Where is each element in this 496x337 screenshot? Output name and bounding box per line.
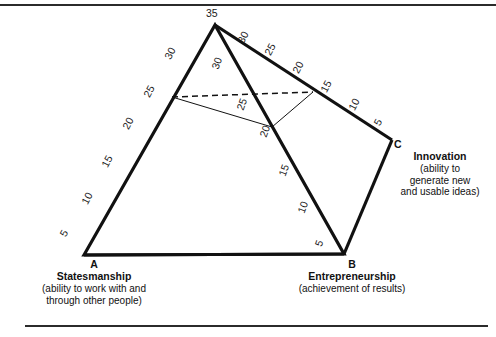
construction-line-from-c-axis bbox=[272, 92, 313, 127]
vertex-b-letter: B bbox=[272, 258, 432, 270]
vertex-label-a: A Statesmanship (ability to work with an… bbox=[14, 258, 174, 306]
figure-canvas: 35 5 10 15 20 25 30 30 25 20 15 10 5 30 … bbox=[0, 0, 496, 337]
vertex-label-b: B Entrepreneurship (achievement of resul… bbox=[272, 258, 432, 295]
vertex-a-desc-1: (ability to work with and bbox=[14, 283, 174, 295]
vertex-a-letter: A bbox=[14, 258, 174, 270]
vertex-c-desc-3: and usable ideas) bbox=[388, 186, 492, 198]
vertex-b-desc-1: (achievement of results) bbox=[272, 283, 432, 295]
vertex-label-c: C Innovation (ability to generate new an… bbox=[388, 138, 492, 198]
baseline-ab bbox=[84, 254, 344, 255]
tick-apex-35: 35 bbox=[206, 8, 218, 19]
vertex-c-title: Innovation bbox=[388, 150, 492, 162]
vertex-c-desc-2: generate new bbox=[388, 175, 492, 187]
vertex-b-title: Entrepreneurship bbox=[272, 270, 432, 282]
dashed-construction-line bbox=[172, 92, 313, 97]
vertex-c-letter: C bbox=[394, 138, 492, 150]
edge-c-to-b bbox=[344, 140, 392, 254]
vertex-a-desc-2: through other people) bbox=[14, 295, 174, 307]
vertex-c-desc-1: (ability to bbox=[388, 163, 492, 175]
vertex-a-title: Statesmanship bbox=[14, 270, 174, 282]
